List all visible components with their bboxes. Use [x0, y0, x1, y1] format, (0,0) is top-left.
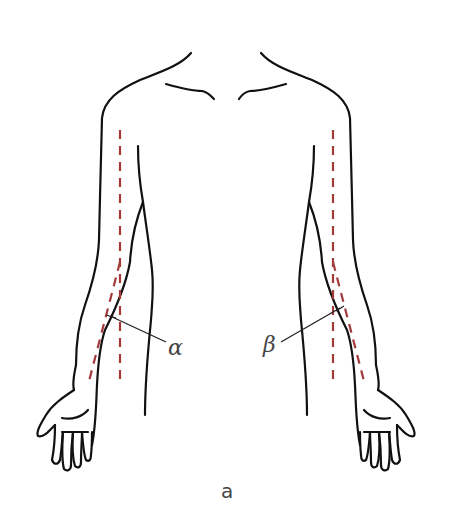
beta-label: β: [262, 332, 276, 357]
right-arm-outline: [239, 53, 415, 470]
beta-leader-line: [281, 308, 340, 342]
panel-label: a: [221, 479, 233, 503]
left-arm-axes: [88, 130, 120, 385]
alpha-leader-line: [110, 316, 166, 342]
arm-carrying-angle-diagram: α β a: [0, 0, 454, 530]
right-arm-axes: [333, 130, 365, 385]
alpha-annotation: α: [106, 315, 183, 360]
left-arm-outline: [37, 53, 214, 470]
alpha-label: α: [168, 335, 183, 360]
